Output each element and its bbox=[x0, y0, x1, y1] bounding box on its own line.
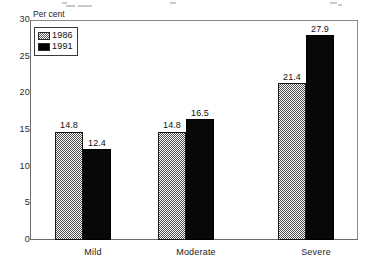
bar-value-1986-mild: 14.8 bbox=[52, 121, 86, 130]
y-tick-label-5: 5 bbox=[4, 198, 30, 207]
y-tick-label-25: 25 bbox=[4, 52, 30, 61]
bar-value-1991-moderate: 16.5 bbox=[183, 109, 217, 118]
y-axis-title: Per cent bbox=[33, 9, 65, 19]
category-label-mild: Mild bbox=[63, 247, 123, 257]
bar-1986-mild bbox=[55, 132, 83, 241]
bar-chart: 30 25 20 15 10 5 0 Per cent 1986 1991 bbox=[0, 0, 372, 262]
y-tick-label-15: 15 bbox=[4, 125, 30, 134]
bar-value-1986-severe: 21.4 bbox=[275, 73, 309, 82]
category-label-moderate: Moderate bbox=[166, 247, 226, 257]
bar-1986-severe bbox=[278, 83, 306, 240]
bar-value-1986-moderate: 14.8 bbox=[155, 121, 189, 130]
category-label-severe: Severe bbox=[286, 247, 346, 257]
y-axis: 30 25 20 15 10 5 0 bbox=[0, 20, 30, 240]
y-tick-label-20: 20 bbox=[4, 88, 30, 97]
y-tick-label-10: 10 bbox=[4, 162, 30, 171]
y-tick-label-30: 30 bbox=[4, 15, 30, 24]
bar-value-1991-severe: 27.9 bbox=[303, 25, 337, 34]
y-tick-label-0: 0 bbox=[4, 235, 30, 244]
bar-1991-mild bbox=[83, 149, 111, 240]
bars-layer: 14.8 12.4 14.8 16.5 21.4 27.9 bbox=[30, 20, 358, 240]
bar-1986-moderate bbox=[158, 132, 186, 241]
scan-artifact bbox=[0, 0, 372, 9]
bar-value-1991-mild: 12.4 bbox=[80, 139, 114, 148]
bar-1991-moderate bbox=[186, 119, 214, 240]
bar-1991-severe bbox=[306, 35, 334, 240]
